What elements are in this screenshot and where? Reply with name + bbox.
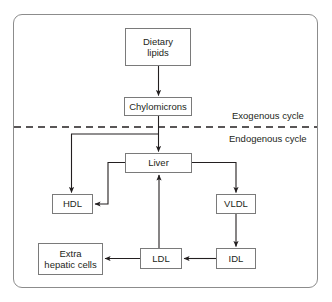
label-exogenous-cycle: Exogenous cycle xyxy=(232,110,304,121)
node-hdl: HDL xyxy=(52,194,93,214)
node-dietary-lipids: Dietary lipids xyxy=(125,28,191,66)
label-endogenous-cycle: Endogenous cycle xyxy=(229,133,307,144)
node-chylomicrons: Chylomicrons xyxy=(124,97,192,116)
node-liver: Liver xyxy=(125,153,192,173)
node-ldl: LDL xyxy=(140,248,182,269)
node-extra-hepatic-cells: Extra hepatic cells xyxy=(38,243,103,275)
node-vldl: VLDL xyxy=(216,194,256,214)
lipoprotein-metabolism-diagram: Dietary lipids Chylomicrons Liver HDL VL… xyxy=(0,0,332,302)
node-idl: IDL xyxy=(216,248,256,269)
